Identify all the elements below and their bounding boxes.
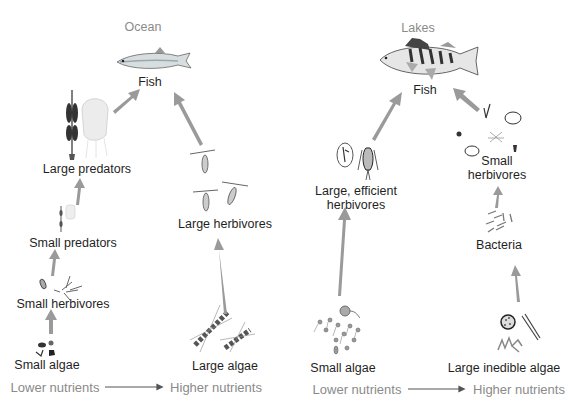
arrow-large-herbivores-to-fish [174, 92, 203, 146]
arrow-bacteria-to-small-herbivores [493, 186, 503, 208]
large-efficient-herbivores-line2: herbivores [327, 198, 385, 212]
large-algae-label: Large algae [192, 359, 258, 373]
large-algae-icon [190, 305, 255, 352]
arrow-large-inedible-algae-to-bacteria [511, 265, 521, 302]
bacteria-label: Bacteria [476, 238, 522, 252]
lakes-small-algae-icon [314, 306, 360, 354]
ocean-panel-title: Ocean [125, 20, 162, 34]
lakes-panel-title: Lakes [401, 21, 434, 35]
large-predators-icon [66, 90, 108, 160]
large-inedible-algae-label: Large inedible algae [448, 361, 561, 375]
arrow-large-algae-to-large-herbivores [214, 238, 227, 314]
lakes-higher-nutrients-label: Higher nutrients [473, 382, 565, 397]
small-herbivores-line2: herbivores [468, 168, 526, 182]
food-web-diagram: Ocean Fish Large predators Small predato… [0, 0, 574, 408]
lakes-lower-nutrients-label: Lower nutrients [313, 382, 402, 397]
arrow-small-herbivores-to-fish [453, 88, 480, 112]
arrow-small-herbivores-to-small-predators [49, 249, 60, 276]
large-efficient-herbivores-icon [337, 143, 378, 180]
diagram-graphics [0, 0, 574, 408]
ocean-fish-icon [117, 47, 191, 68]
lakes-small-herbivores-label: Small herbivores [468, 154, 526, 183]
arrow-large-predators-to-fish [113, 89, 140, 114]
large-efficient-herbivores-line1: Large, efficient [315, 184, 397, 198]
large-herbivores-label: Large herbivores [178, 217, 272, 231]
lakes-small-algae-label: Small algae [310, 361, 375, 375]
large-efficient-herbivores-label: Large, efficient herbivores [315, 184, 397, 213]
arrow-small-algae-to-small-herbivores [45, 309, 57, 334]
bacteria-icon [486, 211, 512, 232]
small-herbivores-label: Small herbivores [16, 297, 109, 311]
ocean-small-algae-icon [36, 341, 55, 357]
large-inedible-algae-icon [498, 314, 540, 352]
arrow-small-algae-to-large-efficient-herbivores [338, 207, 351, 296]
small-predators-label: Small predators [29, 236, 117, 250]
ocean-higher-nutrients-label: Higher nutrients [170, 380, 262, 395]
large-predators-label: Large predators [43, 162, 131, 176]
lakes-small-herbivores-icon [457, 104, 522, 156]
ocean-fish-label: Fish [138, 75, 162, 89]
arrow-small-predators-to-large-predators [74, 178, 85, 205]
ocean-lower-nutrients-label: Lower nutrients [11, 380, 100, 395]
arrow-large-efficient-herbivores-to-fish [372, 92, 402, 141]
lakes-fish-icon [380, 38, 478, 80]
small-herbivores-line1: Small [481, 154, 512, 168]
large-herbivores-icon [190, 150, 248, 211]
lakes-fish-label: Fish [413, 83, 437, 97]
ocean-small-algae-label: Small algae [14, 358, 79, 372]
small-predators-icon [59, 205, 75, 232]
